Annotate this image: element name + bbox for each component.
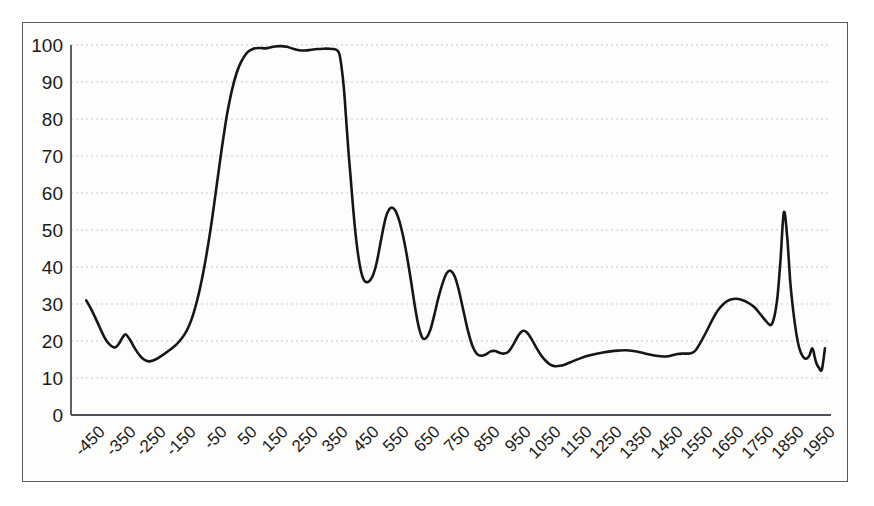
y-tick-label: 20 bbox=[42, 332, 63, 351]
x-tick-label: 50 bbox=[235, 423, 260, 448]
x-tick-label: -450 bbox=[72, 423, 108, 459]
y-tick-label: 60 bbox=[42, 184, 63, 203]
y-tick-label: 70 bbox=[42, 147, 63, 166]
y-tick-label: 40 bbox=[42, 258, 63, 277]
x-tick-label: 1350 bbox=[617, 423, 656, 462]
x-tick-label: 650 bbox=[411, 423, 443, 455]
x-axis-tick-labels: -450-350-250-150-50501502503504505506507… bbox=[23, 423, 849, 483]
chart-plot-region: 0102030405060708090100 -450-350-250-150-… bbox=[23, 23, 849, 483]
y-tick-label: 30 bbox=[42, 295, 63, 314]
x-tick-label: -150 bbox=[163, 423, 199, 459]
x-tick-label: -350 bbox=[103, 423, 139, 459]
x-tick-label: 450 bbox=[350, 423, 382, 455]
x-tick-label: 150 bbox=[259, 423, 291, 455]
x-tick-label: 250 bbox=[289, 423, 321, 455]
x-tick-label: 1650 bbox=[708, 423, 747, 462]
y-tick-label: 0 bbox=[52, 406, 63, 425]
x-tick-label: 1950 bbox=[799, 423, 838, 462]
gridlines bbox=[71, 45, 831, 378]
x-tick-label: -50 bbox=[200, 423, 229, 452]
data-series-line bbox=[86, 46, 825, 371]
x-tick-label: 750 bbox=[441, 423, 473, 455]
x-tick-label: 1050 bbox=[525, 423, 564, 462]
x-tick-label: -250 bbox=[133, 423, 169, 459]
line-chart-svg bbox=[23, 23, 849, 483]
x-tick-label: 1750 bbox=[738, 423, 777, 462]
y-tick-label: 50 bbox=[42, 221, 63, 240]
x-tick-label: 350 bbox=[319, 423, 351, 455]
x-tick-label: 1250 bbox=[586, 423, 625, 462]
x-tick-label: 550 bbox=[380, 423, 412, 455]
y-tick-label: 90 bbox=[42, 73, 63, 92]
y-tick-label: 100 bbox=[31, 36, 63, 55]
x-tick-label: 1150 bbox=[557, 423, 595, 461]
x-tick-label: 1450 bbox=[647, 423, 686, 462]
y-tick-label: 80 bbox=[42, 110, 63, 129]
y-tick-label: 10 bbox=[42, 369, 63, 388]
y-axis-tick-labels: 0102030405060708090100 bbox=[23, 23, 63, 483]
x-tick-label: 850 bbox=[471, 423, 503, 455]
x-tick-label: 1850 bbox=[769, 423, 808, 462]
chart-frame: 0102030405060708090100 -450-350-250-150-… bbox=[22, 22, 848, 482]
x-tick-label: 1550 bbox=[677, 423, 716, 462]
